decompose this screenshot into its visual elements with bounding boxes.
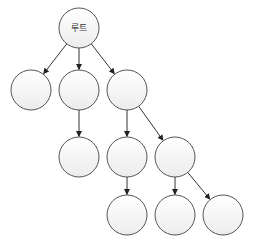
node-circle — [59, 137, 99, 177]
tree-node — [59, 70, 99, 110]
tree-node — [155, 137, 195, 177]
root-node: 루트 — [59, 8, 99, 48]
node-label: 루트 — [71, 23, 87, 33]
node-circle — [11, 70, 51, 110]
tree-node — [107, 70, 147, 110]
tree-node — [107, 137, 147, 177]
tree-node — [107, 195, 147, 235]
node-circle — [107, 195, 147, 235]
edge-arrow — [139, 106, 163, 140]
node-circle — [203, 195, 243, 235]
edge-arrow — [44, 44, 67, 74]
node-circle — [155, 137, 195, 177]
node-circle — [107, 137, 147, 177]
node-circle — [107, 70, 147, 110]
tree-node — [203, 195, 243, 235]
node-circle — [59, 70, 99, 110]
tree-node — [155, 195, 195, 235]
edge-arrow — [188, 172, 210, 199]
edge-arrow — [91, 44, 114, 74]
tree-node — [59, 137, 99, 177]
tree-diagram: 루트 — [0, 0, 254, 243]
tree-node — [11, 70, 51, 110]
node-circle — [155, 195, 195, 235]
